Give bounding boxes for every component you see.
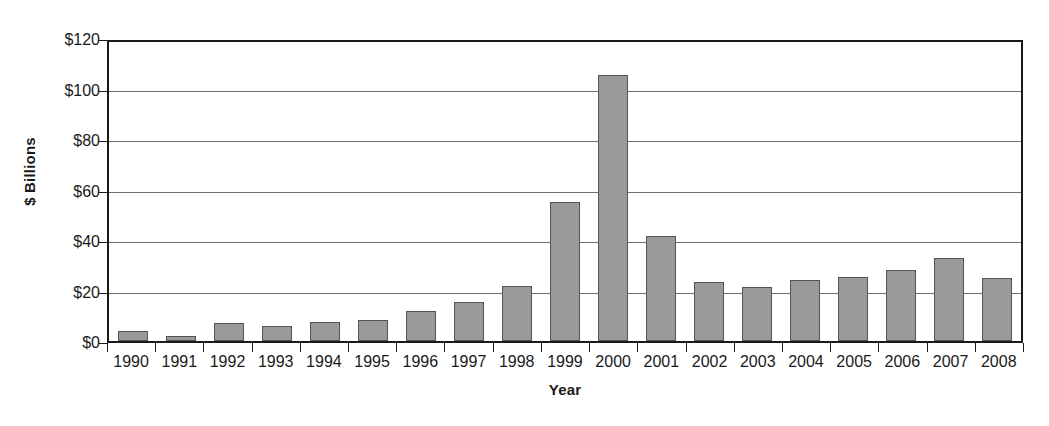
x-axis-tick-label: 2006 xyxy=(878,352,926,372)
bar-slot xyxy=(781,42,829,341)
bar-slot xyxy=(637,42,685,341)
x-axis-tick-label: 2002 xyxy=(685,352,733,372)
x-axis-tick-mark xyxy=(155,343,156,352)
bar[interactable] xyxy=(838,277,868,341)
x-axis-tick-label: 1995 xyxy=(348,352,396,372)
y-axis-tick-label: $80 xyxy=(38,133,100,149)
x-axis-tick-label: 1993 xyxy=(252,352,300,372)
bar[interactable] xyxy=(310,322,340,341)
x-axis-tick-mark xyxy=(830,343,831,352)
bar[interactable] xyxy=(358,320,388,341)
plot-area xyxy=(107,40,1023,343)
x-axis-tick-label: 1991 xyxy=(155,352,203,372)
bar-slot xyxy=(109,42,157,341)
x-axis-tick-mark xyxy=(1023,343,1024,352)
x-axis-tick-label: 2008 xyxy=(975,352,1023,372)
x-axis-tick-label: 2007 xyxy=(926,352,974,372)
y-axis-tick-mark xyxy=(98,242,107,243)
y-axis-tick-labels: $0$20$40$60$80$100$120 xyxy=(38,0,100,426)
bar-slot xyxy=(733,42,781,341)
x-axis-tick-label: 1992 xyxy=(203,352,251,372)
x-axis-tick-mark xyxy=(348,343,349,352)
x-axis-tick-mark xyxy=(734,343,735,352)
bar[interactable] xyxy=(982,278,1012,341)
x-axis-tick-mark xyxy=(493,343,494,352)
bar-slot xyxy=(925,42,973,341)
x-axis-tick-mark xyxy=(782,343,783,352)
y-axis-tick-label: $100 xyxy=(38,83,100,99)
x-axis-tick-label: 1999 xyxy=(541,352,589,372)
x-axis-tick-mark xyxy=(927,343,928,352)
bar-slot xyxy=(445,42,493,341)
bar[interactable] xyxy=(454,302,484,341)
x-axis-tick-labels: 1990199119921993199419951996199719981999… xyxy=(107,352,1023,372)
x-axis-tick-mark xyxy=(975,343,976,352)
y-axis-tick-mark xyxy=(98,343,107,344)
bar[interactable] xyxy=(694,282,724,341)
bar[interactable] xyxy=(598,75,628,341)
x-axis-tick-label: 2000 xyxy=(589,352,637,372)
bar[interactable] xyxy=(166,336,196,341)
x-axis-tick-label: 2001 xyxy=(637,352,685,372)
y-axis-tick-label: $0 xyxy=(38,335,100,351)
bar-slot xyxy=(397,42,445,341)
x-axis-tick-label: 1994 xyxy=(300,352,348,372)
x-axis-tick-mark xyxy=(686,343,687,352)
bar-slot xyxy=(157,42,205,341)
y-axis-tick-mark xyxy=(98,40,107,41)
y-axis-title-label: $ Billions xyxy=(21,137,38,206)
x-axis-tick-mark xyxy=(252,343,253,352)
x-axis-tick-mark xyxy=(637,343,638,352)
bar-slot xyxy=(829,42,877,341)
bar-slot xyxy=(589,42,637,341)
x-axis-tick-label: 1996 xyxy=(396,352,444,372)
x-axis-tick-mark xyxy=(444,343,445,352)
x-axis-tick-mark xyxy=(300,343,301,352)
x-axis-tick-mark xyxy=(878,343,879,352)
bar-chart: $ Billions $0$20$40$60$80$100$120 199019… xyxy=(0,0,1049,426)
bar[interactable] xyxy=(886,270,916,341)
bar-slot xyxy=(253,42,301,341)
bar[interactable] xyxy=(646,236,676,341)
bar[interactable] xyxy=(934,258,964,341)
bars-container xyxy=(109,42,1021,341)
x-axis-title: Year xyxy=(107,381,1023,398)
bar[interactable] xyxy=(406,311,436,341)
bar[interactable] xyxy=(790,280,820,341)
bar-slot xyxy=(541,42,589,341)
y-axis-tick-mark xyxy=(98,192,107,193)
y-axis-tick-label: $120 xyxy=(38,32,100,48)
bar-slot xyxy=(205,42,253,341)
x-axis-tick-label: 2003 xyxy=(734,352,782,372)
x-axis-tick-label: 1990 xyxy=(107,352,155,372)
y-axis-tick-mark xyxy=(98,141,107,142)
bar-slot xyxy=(493,42,541,341)
x-axis-tick-label: 2005 xyxy=(830,352,878,372)
bar-slot xyxy=(877,42,925,341)
bar[interactable] xyxy=(502,286,532,341)
bar-slot xyxy=(973,42,1021,341)
bar[interactable] xyxy=(214,323,244,341)
x-axis-tick-label: 1997 xyxy=(444,352,492,372)
bar[interactable] xyxy=(742,287,772,341)
x-axis-tick-mark xyxy=(396,343,397,352)
x-axis-tick-mark xyxy=(589,343,590,352)
bar[interactable] xyxy=(118,331,148,341)
y-axis-tick-label: $20 xyxy=(38,285,100,301)
x-axis-tick-mark xyxy=(541,343,542,352)
x-axis-tick-mark xyxy=(203,343,204,352)
y-axis-tick-label: $60 xyxy=(38,184,100,200)
x-axis-tick-label: 1998 xyxy=(493,352,541,372)
bar[interactable] xyxy=(262,326,292,341)
x-axis-tick-label: 2004 xyxy=(782,352,830,372)
x-axis-tick-mark xyxy=(107,343,108,352)
y-axis-tick-mark xyxy=(98,293,107,294)
bar-slot xyxy=(685,42,733,341)
y-axis-tick-mark xyxy=(98,91,107,92)
bar[interactable] xyxy=(550,202,580,341)
y-axis-tick-label: $40 xyxy=(38,234,100,250)
bar-slot xyxy=(349,42,397,341)
bar-slot xyxy=(301,42,349,341)
